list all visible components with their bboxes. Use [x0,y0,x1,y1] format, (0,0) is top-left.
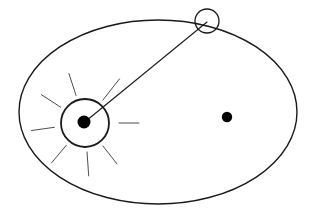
orbit-diagram-svg [0,0,315,218]
radius-vector-line [86,22,207,121]
ray-up-left [69,74,76,96]
ray-down-left [52,145,67,163]
second-focus-dot [222,112,232,122]
orbit-ellipse [19,20,297,204]
orbiting-body-circle [195,9,219,33]
ray-up-right-short [103,79,120,100]
sun-core-dot [78,116,91,129]
ray-left [32,127,55,130]
ray-down [87,152,89,176]
ray-down-right [103,146,117,164]
ray-up-left-upper [41,95,60,108]
figure-root [0,0,315,218]
